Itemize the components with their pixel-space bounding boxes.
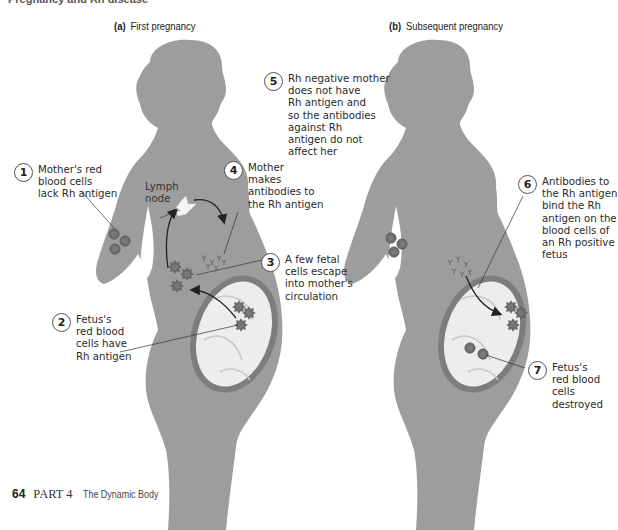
step-number-6: 6	[518, 175, 537, 194]
step-number-3: 3	[261, 253, 280, 272]
page-number: 64	[12, 487, 25, 501]
callout-7: 7 Fetus's red blood cells destroyed	[528, 362, 603, 411]
callout-text-2: Fetus's red blood cells have Rh antigen	[76, 314, 132, 363]
callout-text-4: Mother makes antibodies to the Rh antige…	[248, 162, 323, 211]
step-number-2: 2	[52, 313, 71, 332]
callout-text-6: Antibodies to the Rh antigen bind the Rh…	[542, 176, 617, 261]
lymph-node-label: Lymph node	[145, 181, 179, 205]
step-number-1: 1	[14, 163, 33, 182]
panel-letter-b: (b)	[389, 20, 401, 32]
part-title: The Dynamic Body	[83, 488, 158, 500]
step-number-7: 7	[528, 361, 547, 380]
panel-title-a: (a)First pregnancy	[114, 20, 195, 32]
callout-6: 6 Antibodies to the Rh antigen bind the …	[518, 176, 617, 261]
panel-letter-a: (a)	[114, 20, 126, 32]
callout-2: 2 Fetus's red blood cells have Rh antige…	[52, 314, 132, 363]
callout-text-5: Rh negative mother does not have Rh anti…	[288, 73, 390, 158]
callout-text-7: Fetus's red blood cells destroyed	[552, 362, 603, 411]
panel-title-b: (b)Subsequent pregnancy	[389, 20, 503, 32]
callout-4: 4 Mother makes antibodies to the Rh anti…	[224, 162, 323, 211]
panel-label-b: Subsequent pregnancy	[406, 20, 503, 32]
callout-5: 5 Rh negative mother does not have Rh an…	[264, 73, 390, 158]
part-label: PART 4	[33, 487, 72, 502]
step-number-5: 5	[264, 72, 283, 91]
step-number-4: 4	[224, 161, 243, 180]
callout-text-1: Mother's red blood cells lack Rh antigen	[38, 164, 117, 201]
callout-1: 1 Mother's red blood cells lack Rh antig…	[14, 164, 117, 201]
page-footer: 64 PART 4 The Dynamic Body	[12, 487, 171, 502]
callout-text-3: A few fetal cells escape into mother's c…	[285, 254, 353, 303]
panel-label-a: First pregnancy	[130, 20, 195, 32]
callout-3: 3 A few fetal cells escape into mother's…	[261, 254, 353, 303]
